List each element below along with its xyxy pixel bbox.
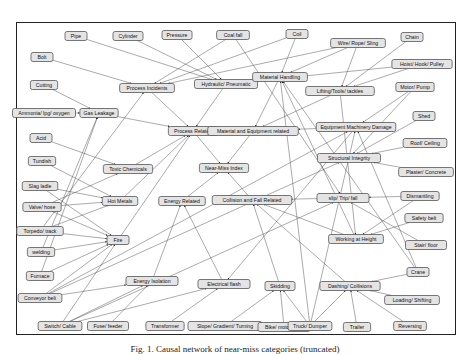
node-bolt: Bolt <box>31 53 53 62</box>
edge-coalfall-to-process_inc <box>154 40 225 84</box>
edge-conveyor-to-eq_dmg <box>48 132 347 294</box>
edge-collision_fall-to-nearmiss <box>228 173 248 196</box>
node-label: Pressure <box>167 32 188 38</box>
node-structural: Structural Integrity <box>318 154 381 163</box>
node-loading: Loading/ Shifting <box>385 296 440 305</box>
node-slag: Slag ladle <box>22 182 58 191</box>
node-label: welding <box>32 249 50 255</box>
figure-caption: Fig. 1. Causal network of near-miss cate… <box>0 344 470 354</box>
node-label: Transformer <box>151 323 179 329</box>
node-conveyor: Conveyor belt <box>18 294 62 303</box>
node-label: Process Related <box>174 128 212 134</box>
node-reversing: Reversing <box>394 322 427 331</box>
edge-eq_dmg-to-mat_eq <box>298 129 316 130</box>
edge-lifting-to-working_h <box>340 96 355 235</box>
node-label: Truck/ Dumper <box>293 323 327 329</box>
edge-trailer-to-dashing <box>351 291 356 323</box>
edge-crane-to-dashing <box>372 274 407 281</box>
edge-gas-to-process_rel <box>118 117 169 127</box>
node-safety-belt: Safety belt <box>405 214 443 223</box>
node-label: Material and Equipment related <box>217 128 289 134</box>
node-dismantling: Dismantling <box>401 192 439 201</box>
node-eq-dmg: Equipment Machinery Damage <box>316 123 396 132</box>
edge-hydraulic-to-process_rel <box>196 89 223 127</box>
node-label: Loading/ Shifting <box>393 297 432 303</box>
node-label: Material Handling <box>260 74 300 80</box>
node-hot: Hot Metals <box>102 197 138 206</box>
node-label: Torpedo/ track <box>24 228 57 234</box>
node-stair: Stair/ floor <box>406 241 447 250</box>
edge-cylinder-to-hydraulic <box>137 41 217 80</box>
edge-conveyor-to-energy_iso <box>62 285 126 295</box>
edge-truck-to-skidding <box>283 291 306 322</box>
node-label: Reversing <box>398 323 421 329</box>
node-chain: Chain <box>401 33 423 42</box>
node-hoist: Hoist/ Hook/ Pulley <box>392 60 452 69</box>
edge-bolt-to-process_inc <box>53 60 132 83</box>
node-label: Energy Related <box>164 198 200 204</box>
node-label: Cutting <box>36 82 53 88</box>
edge-energy_iso-to-energy_rel <box>154 206 181 277</box>
edge-electrical-to-energy_rel <box>184 206 221 280</box>
node-label: Working at Height <box>335 236 377 242</box>
node-wire: Wire/ Rope/ Sling <box>331 39 386 48</box>
network-diagram: PipeCylinderPressureCoal fallCoilWire/ R… <box>0 0 470 354</box>
edge-skidding-to-collision_fall <box>253 205 278 282</box>
edge-toxic-to-process_rel <box>136 136 186 165</box>
node-collision-fall: Collision and Fall Related <box>212 196 292 205</box>
node-label: Crane <box>411 269 425 275</box>
node-label: Motor/ Pump <box>400 84 430 90</box>
node-label: Energy Isolation <box>133 278 170 284</box>
node-label: Ammonia/ lpg/ oxygen <box>18 110 69 116</box>
node-label: Furnace <box>30 273 49 279</box>
node-trailer: Trailer <box>343 323 370 332</box>
node-slip: slip/ Trip/ fall <box>317 194 369 203</box>
edge-switch-to-energy_iso <box>69 286 143 322</box>
edge-transformer-to-electrical <box>171 289 217 322</box>
edge-material_h-to-mat_eq <box>255 82 278 127</box>
edge-loading-to-dashing <box>370 291 392 296</box>
node-label: Dismantling <box>406 193 433 199</box>
node-crane: Crane <box>407 268 429 277</box>
node-label: Slag ladle <box>29 183 52 189</box>
node-label: Structural Integrity <box>328 155 370 161</box>
node-label: Bolt <box>38 54 47 60</box>
node-slope: Slope/ Gradient/ Turning <box>188 322 262 331</box>
node-pipe: Pipe <box>65 32 87 41</box>
node-torpedo: Torpedo/ track <box>17 227 64 236</box>
edge-motor-to-eq_dmg <box>363 92 409 123</box>
node-label: slip/ Trip/ fall <box>329 195 358 201</box>
node-welding: welding <box>27 248 54 257</box>
node-roof: Roof/ Ceiling <box>403 139 447 148</box>
edge-mat_eq-to-nearmiss <box>228 136 250 164</box>
edge-switch-to-fire <box>63 245 115 322</box>
edge-switch-to-slip <box>70 203 333 322</box>
node-material-h: Material Handling <box>253 73 308 82</box>
node-toxic: Toxic Chemicals <box>103 165 152 174</box>
edge-coil-to-material_h <box>282 39 295 73</box>
node-electrical: Electrical flash <box>198 280 250 289</box>
node-cylinder: Cylinder <box>113 32 143 41</box>
node-valve: Valve/ hose <box>23 203 61 212</box>
node-label: Dashing/ Collisions <box>328 283 373 289</box>
edge-bike-to-skidding <box>280 291 283 323</box>
node-pressure: Pressure <box>162 31 192 40</box>
node-label: Stair/ floor <box>414 242 438 248</box>
edge-cutting-to-gas <box>53 90 90 109</box>
node-energy-rel: Energy Related <box>159 197 206 206</box>
node-transformer: Transformer <box>146 322 184 331</box>
node-label: Plaster/ Concrete <box>406 169 446 175</box>
node-fire: Fire <box>107 236 129 245</box>
node-label: Lifting/Tools/ tackles <box>317 88 364 94</box>
edge-process_rel-to-nearmiss <box>197 136 220 164</box>
node-coil: Coil <box>286 30 308 39</box>
node-lifting: Lifting/Tools/ tackles <box>306 87 375 96</box>
node-mat-eq: Material and Equipment related <box>208 127 299 136</box>
node-label: Trailer <box>350 324 365 330</box>
node-label: Electrical flash <box>207 281 241 287</box>
node-label: Hot Metals <box>108 198 133 204</box>
edge-conveyor-to-fire <box>46 245 112 294</box>
edge-fire-to-process_rel <box>121 136 190 236</box>
edge-torpedo-to-fire <box>63 234 107 239</box>
edge-energy_rel-to-nearmiss <box>188 173 219 197</box>
